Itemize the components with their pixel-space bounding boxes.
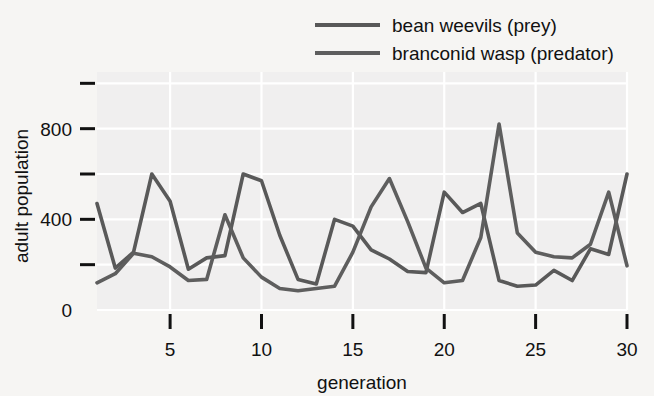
- x-axis-tick-label: 15: [342, 339, 363, 360]
- legend-label-prey: bean weevils (prey): [392, 15, 557, 36]
- legend-label-predator: branconid wasp (predator): [392, 43, 614, 64]
- chart-container: 0400800 51015202530 generation adult pop…: [0, 0, 654, 396]
- population-line-chart: 0400800 51015202530 generation adult pop…: [0, 0, 654, 396]
- x-axis-title: generation: [317, 372, 407, 393]
- x-axis-tick-label: 5: [165, 339, 176, 360]
- y-axis-tick-label: 400: [40, 209, 72, 230]
- x-axis-tick-label: 20: [434, 339, 455, 360]
- y-axis-tick-label: 0: [61, 300, 72, 321]
- x-axis-tick-label: 30: [616, 339, 637, 360]
- x-axis-tick-label: 25: [525, 339, 546, 360]
- y-axis-tick-label: 800: [40, 119, 72, 140]
- y-axis-title: adult population: [11, 129, 32, 263]
- x-axis-tick-label: 10: [251, 339, 272, 360]
